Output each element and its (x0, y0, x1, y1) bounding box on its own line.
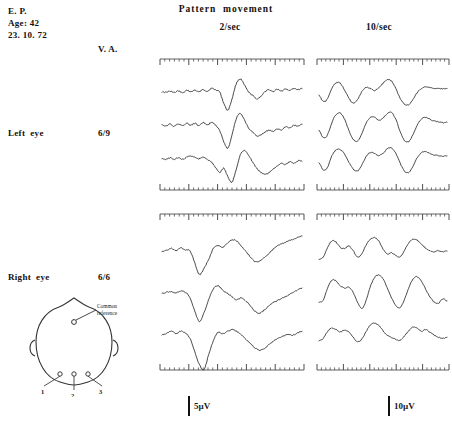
trace-channel-2 (162, 113, 302, 148)
patient-date: 23. 10. 72 (8, 30, 47, 40)
right-ear (113, 340, 118, 356)
trace-panel-right-eye-10sec (315, 210, 451, 375)
electrode-3 (86, 372, 90, 376)
electrode-2 (72, 372, 76, 376)
common-reference-electrode (72, 320, 77, 325)
trace-channel-2 (319, 275, 447, 309)
trace-channel-3 (162, 329, 302, 370)
head-electrode-diagram: Commonreference123 (14, 292, 134, 397)
trace-channel-3 (319, 323, 447, 342)
trace-channel-1 (319, 237, 447, 259)
trace-panel-right-eye-2sec (158, 210, 306, 375)
column-header-2sec: 2/sec (155, 22, 305, 32)
electrode-2-label: 2 (71, 392, 74, 397)
trace-svg (158, 210, 306, 375)
calibration-label-2sec: 5µV (194, 401, 210, 411)
trace-channel-2 (162, 285, 302, 321)
common-reference-label-line-1: Common (97, 303, 117, 309)
trace-svg (158, 55, 306, 195)
row-label-left-eye: Left eye (8, 128, 44, 138)
common-reference-lead (76, 310, 96, 320)
patient-age: Age: 42 (8, 18, 39, 28)
visual-acuity-header: V. A. (98, 44, 118, 54)
figure-title: Pattern movement (0, 4, 452, 14)
left-ear (30, 340, 35, 356)
trace-svg (315, 210, 451, 375)
calibration-2sec: 5µV (188, 396, 210, 416)
trace-channel-2 (319, 112, 447, 142)
figure-root: E. P. Age: 42 23. 10. 72 Pattern movemen… (0, 0, 452, 431)
trace-svg (315, 55, 451, 195)
head-diagram-svg: Commonreference123 (14, 292, 134, 397)
trace-channel-1 (319, 79, 447, 105)
trace-panel-left-eye-10sec (315, 55, 451, 195)
calibration-bar-icon (188, 396, 190, 416)
row-va-left-eye: 6/9 (98, 128, 110, 138)
trace-channel-3 (162, 150, 302, 182)
common-reference-label-line-2: reference (97, 310, 118, 316)
row-va-right-eye: 6/6 (98, 272, 110, 282)
calibration-label-10sec: 10µV (394, 401, 415, 411)
electrode-3-label: 3 (99, 388, 102, 395)
row-label-right-eye: Right eye (8, 272, 50, 282)
trace-channel-3 (319, 148, 447, 173)
trace-channel-1 (162, 236, 302, 275)
column-header-10sec: 10/sec (308, 22, 450, 32)
trace-channel-1 (162, 79, 302, 110)
trace-panel-left-eye-2sec (158, 55, 306, 195)
electrode-1 (58, 372, 62, 376)
electrode-1-label: 1 (41, 388, 44, 395)
calibration-10sec: 10µV (388, 396, 415, 416)
calibration-bar-icon (388, 396, 390, 416)
